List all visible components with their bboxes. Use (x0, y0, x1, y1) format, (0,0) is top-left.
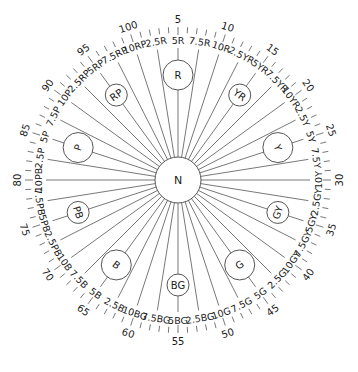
tick-mark (322, 151, 328, 152)
tick-mark (36, 124, 42, 126)
tick-mark (26, 198, 32, 199)
tick-mark (96, 304, 99, 309)
hue-label: 2.5BG (185, 311, 215, 326)
tick-mark (32, 225, 40, 227)
hue-label: 5R (172, 35, 185, 46)
hue-circle-label: R (175, 70, 182, 81)
tick-mark (324, 161, 330, 162)
tick-mark (44, 251, 49, 254)
hue-circle-b: B (101, 250, 131, 280)
step-number: 5 (175, 14, 181, 25)
tick-mark (28, 151, 34, 152)
tick-mark (320, 217, 326, 218)
step-number: 80 (12, 174, 23, 187)
hue-circle-r: R (163, 60, 193, 90)
hue-circle-bg: BG (167, 274, 189, 296)
tick-mark (272, 293, 276, 298)
tick-mark (279, 287, 283, 291)
tick-mark (232, 317, 234, 323)
tick-mark (279, 68, 283, 72)
radial-line (48, 184, 156, 201)
hue-label: 2.5P (33, 147, 47, 170)
tick-mark (307, 251, 312, 254)
tick-mark (272, 62, 276, 67)
hue-circle-pb: PB (67, 201, 89, 223)
tick-mark (315, 234, 321, 236)
tick-mark (66, 75, 70, 79)
tick-mark (140, 32, 141, 38)
tick-mark (80, 293, 84, 298)
tick-mark (149, 30, 150, 36)
tick-mark (113, 42, 116, 47)
tick-mark (80, 62, 84, 67)
tick-mark (113, 313, 116, 318)
hue-circle-rp: RP (105, 84, 127, 106)
hue-label: 2.5R (145, 35, 169, 49)
hue-label: 10RP (121, 38, 148, 56)
tick-mark (88, 297, 93, 303)
tick-mark (302, 98, 307, 101)
tick-mark (60, 274, 65, 278)
step-number: 90 (40, 77, 56, 94)
step-number: 45 (264, 302, 281, 318)
tick-mark (60, 82, 65, 86)
tick-mark (315, 124, 321, 126)
tick-mark (73, 287, 77, 291)
tick-mark (54, 265, 60, 270)
neutral-label: N (174, 174, 182, 187)
step-number: 75 (18, 222, 32, 238)
step-number: 65 (75, 302, 92, 318)
step-number: 35 (324, 222, 338, 238)
tick-mark (311, 115, 316, 118)
radial-line (185, 202, 219, 306)
tick-mark (44, 106, 49, 109)
tick-mark (40, 115, 45, 118)
hue-label: 2.5GY (309, 187, 324, 216)
tick-mark (223, 318, 225, 326)
tick-mark (249, 46, 252, 51)
tick-mark (159, 28, 160, 34)
step-number: 70 (40, 266, 56, 283)
munsell-hue-wheel: 5101520253035404550556065707580859095100… (0, 0, 358, 372)
step-number: 60 (120, 326, 136, 340)
tick-mark (206, 324, 207, 330)
hue-circle-g: G (225, 250, 255, 280)
tick-mark (320, 142, 326, 143)
tick-mark (215, 32, 216, 38)
tick-mark (324, 198, 330, 199)
step-number: 25 (324, 122, 338, 138)
tick-mark (263, 297, 268, 303)
hue-label: 7.5Y (309, 147, 323, 170)
step-number: 85 (18, 122, 32, 138)
tick-mark (66, 281, 70, 285)
tick-mark (291, 274, 296, 278)
tick-mark (36, 234, 42, 236)
tick-mark (196, 326, 197, 332)
tick-mark (73, 68, 77, 72)
neutral-center: N (155, 157, 201, 203)
hue-label: 2.5Y (293, 105, 312, 129)
step-number: 30 (334, 174, 345, 187)
tick-mark (295, 265, 301, 270)
hue-label: 2.5PB (42, 229, 64, 258)
tick-mark (249, 309, 252, 314)
step-number: 15 (264, 42, 281, 58)
step-number: 50 (220, 326, 236, 340)
hue-circle-yr: YR (229, 84, 251, 106)
tick-mark (30, 142, 36, 143)
hue-label: 5B (87, 285, 104, 301)
tick-mark (104, 309, 107, 314)
tick-mark (257, 304, 260, 309)
tick-mark (26, 161, 32, 162)
step-number: 10 (220, 20, 236, 34)
hue-label: 5G (252, 285, 269, 302)
tick-mark (196, 28, 197, 34)
hue-circle-y: Y (263, 133, 293, 163)
tick-mark (285, 281, 289, 285)
radial-line (201, 184, 309, 201)
tick-mark (122, 317, 124, 323)
step-number: 20 (300, 77, 316, 94)
step-number: 40 (300, 266, 316, 283)
radial-line (201, 159, 309, 176)
tick-mark (285, 75, 289, 79)
